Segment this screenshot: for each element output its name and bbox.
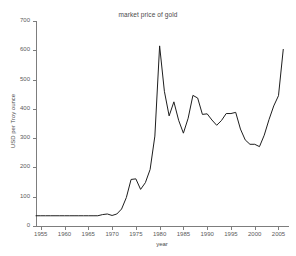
x-tick (207, 227, 208, 230)
x-tick (41, 227, 42, 230)
x-tick-label: 1980 (147, 231, 173, 237)
gold-price-line (36, 46, 283, 216)
x-tick (255, 227, 256, 230)
x-tick (160, 227, 161, 230)
x-tick (183, 227, 184, 230)
y-axis-title: USD per Troy ounce (10, 76, 16, 166)
y-tick-label: 0 (8, 222, 30, 228)
x-tick-label: 1970 (99, 231, 125, 237)
chart-figure: market price of gold 0100200300400500600… (0, 0, 296, 256)
x-axis-line (36, 226, 289, 227)
x-tick (231, 227, 232, 230)
x-axis-title: year (36, 241, 288, 247)
x-tick-label: 1955 (28, 231, 54, 237)
plot-area (36, 21, 288, 226)
x-tick-label: 1965 (75, 231, 101, 237)
x-tick-label: 1990 (194, 231, 220, 237)
x-tick (136, 227, 137, 230)
chart-title: market price of gold (0, 11, 296, 18)
x-tick (65, 227, 66, 230)
x-tick-label: 1985 (170, 231, 196, 237)
x-tick (88, 227, 89, 230)
x-tick-label: 2005 (265, 231, 291, 237)
series-svg (36, 21, 288, 226)
x-tick (278, 227, 279, 230)
y-tick-label: 600 (8, 46, 30, 52)
x-tick (112, 227, 113, 230)
x-tick-label: 1960 (52, 231, 78, 237)
y-tick (33, 226, 36, 227)
y-tick-label: 100 (8, 193, 30, 199)
x-tick-label: 2000 (242, 231, 268, 237)
y-tick-label: 700 (8, 17, 30, 23)
x-tick-label: 1995 (218, 231, 244, 237)
x-tick-label: 1975 (123, 231, 149, 237)
